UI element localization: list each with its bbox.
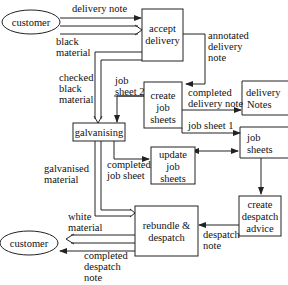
store-label: job (246, 132, 260, 143)
process-label: accept (149, 23, 176, 34)
process-create-job-sheets[interactable]: create job sheets (144, 82, 182, 128)
flow-job-sheet-2 (117, 96, 144, 122)
flow-label-galvanised-material: material (44, 174, 78, 185)
flow-white-material (66, 234, 135, 244)
flow-label-checked: black (59, 83, 82, 94)
process-label: job (165, 161, 179, 172)
process-label: sheets (160, 173, 186, 184)
process-label: create (247, 199, 272, 210)
flow-label-black-material: material (56, 47, 90, 58)
flow-label-job-sheet-2: sheet 2 (115, 86, 144, 97)
process-label: despatch (242, 211, 279, 222)
flow-label-checked: material (59, 94, 93, 105)
flow-label-despatch-note: note (203, 240, 221, 251)
flow-label-completed-job-sheet: job sheet (106, 170, 145, 181)
process-label: advice (246, 223, 274, 234)
process-label: create (150, 90, 175, 101)
process-label: rebundle & (143, 220, 191, 231)
flow-label-delivery-note: delivery note (72, 3, 127, 14)
flow-label-black-material: black (56, 36, 79, 47)
process-label: update (159, 149, 187, 160)
process-create-despatch-advice[interactable]: create despatch advice (239, 196, 281, 236)
flow-label-completed-despatch-note: completed (84, 250, 128, 261)
store-label: delivery (246, 87, 281, 98)
store-label: Notes (247, 99, 272, 110)
flow-label-completed-delivery-note: delivery note (188, 98, 243, 109)
flow-completed-job-sheet (114, 141, 149, 159)
process-label: despatch (148, 232, 185, 243)
flow-label-job-sheet-1: job sheet 1 (187, 120, 234, 131)
process-rebundle-despatch[interactable]: rebundle & despatch (135, 206, 198, 256)
flow-annotated-delivery-note (183, 34, 205, 84)
flow-label-completed-despatch-note: note (84, 272, 102, 283)
flow-label-annotated: delivery (208, 41, 243, 52)
flow-label-job-sheet-2: job (114, 75, 128, 86)
process-accept-delivery[interactable]: accept delivery (142, 9, 183, 61)
customer-entity-bottom[interactable]: customer (0, 231, 58, 255)
process-label: sheets (150, 114, 176, 125)
process-galvanising[interactable]: galvanising (73, 123, 125, 141)
flow-label-completed-delivery-note: completed (188, 87, 232, 98)
flow-label-completed-despatch-note: despatch (84, 261, 121, 272)
flow-label-galvanised-material: galvanised (44, 163, 90, 174)
store-label: sheets (247, 144, 273, 155)
customer-label: customer (10, 238, 49, 249)
store-job-sheets[interactable]: job sheets (240, 127, 288, 158)
process-label: job (155, 102, 169, 113)
process-label: galvanising (75, 127, 124, 138)
flow-label-white-material: white (68, 211, 92, 222)
store-delivery-notes[interactable]: delivery Notes (242, 81, 288, 115)
process-label: delivery (145, 35, 180, 46)
flow-label-checked: checked (59, 72, 94, 83)
flow-label-annotated: note (208, 52, 226, 63)
flow-black-material (60, 25, 142, 35)
customer-entity-top[interactable]: customer (2, 10, 60, 34)
process-update-job-sheets[interactable]: update job sheets (151, 147, 195, 184)
flow-label-completed-job-sheet: completed (107, 159, 151, 170)
flow-label-despatch-note: despatch (203, 229, 240, 240)
flow-label-annotated: annotated (208, 30, 250, 41)
data-flow-diagram: customer accept delivery create job shee… (0, 0, 288, 285)
customer-label: customer (12, 17, 51, 28)
flow-label-white-material: material (68, 222, 102, 233)
